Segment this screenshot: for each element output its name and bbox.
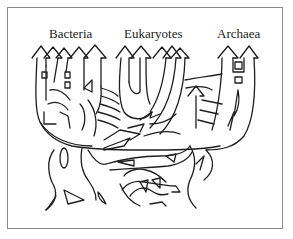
root-tangle bbox=[40, 114, 220, 210]
archaea-branches bbox=[185, 46, 258, 150]
eukaryote-branches bbox=[98, 46, 189, 134]
tree-of-life-diagram bbox=[0, 0, 293, 239]
bacteria-branches bbox=[32, 45, 106, 146]
